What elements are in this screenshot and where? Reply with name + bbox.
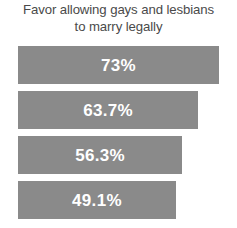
- bar-chart: Favor allowing gays and lesbians to marr…: [0, 0, 237, 228]
- chart-title-line-1: Favor allowing gays and lesbians: [0, 2, 237, 19]
- chart-title-line-2: to marry legally: [0, 19, 237, 36]
- bar-63-7: 63.7%: [18, 91, 198, 129]
- bar-row: 63.7%: [18, 91, 237, 129]
- bar-value-label: 49.1%: [72, 192, 122, 209]
- bar-row: 73%: [18, 46, 237, 84]
- bar-row: 56.3%: [18, 136, 237, 174]
- bar-56-3: 56.3%: [18, 136, 182, 174]
- bar-value-label: 56.3%: [75, 147, 125, 164]
- bar-73: 73%: [18, 46, 219, 84]
- bar-value-label: 73%: [101, 57, 136, 74]
- bar-list: 73% 63.7% 56.3% 49.1%: [18, 46, 237, 226]
- bar-49-1: 49.1%: [18, 181, 176, 219]
- chart-title: Favor allowing gays and lesbians to marr…: [0, 2, 237, 35]
- bar-row: 49.1%: [18, 181, 237, 219]
- bar-value-label: 63.7%: [83, 102, 133, 119]
